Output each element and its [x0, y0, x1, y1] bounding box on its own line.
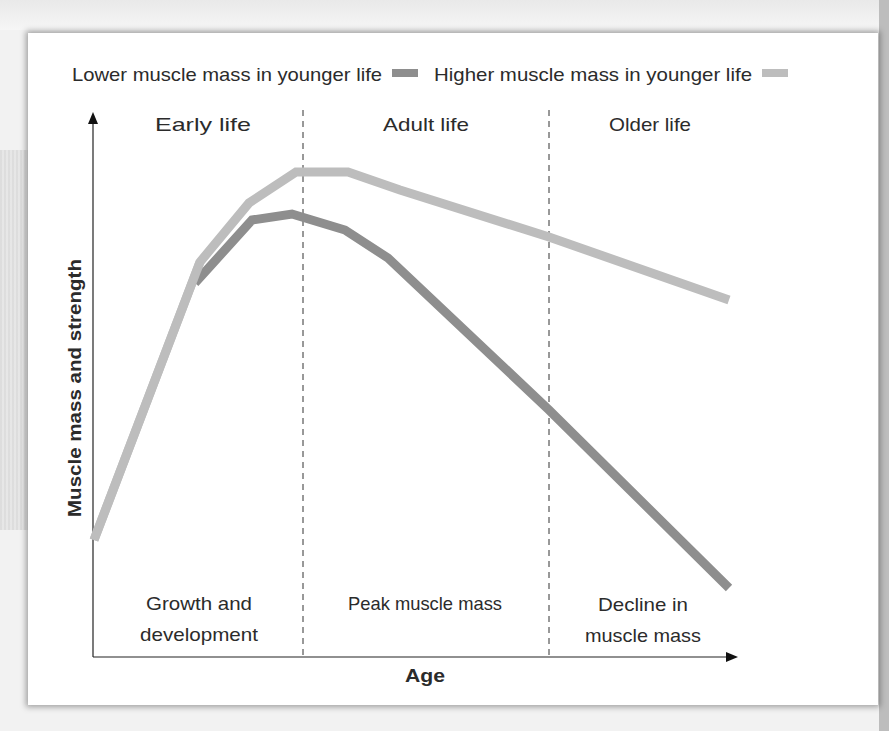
phase-desc-peak: Peak muscle mass: [348, 593, 502, 614]
background-top: [0, 0, 889, 30]
phase-early-life: Early life: [155, 114, 251, 135]
chart-card: Lower muscle mass in younger life Higher…: [28, 33, 878, 705]
line-higher-muscle-mass: [94, 172, 729, 540]
phase-older-life: Older life: [609, 114, 691, 135]
legend-higher-swatch: [762, 69, 788, 77]
phase-desc-growth-1: Growth and: [146, 593, 252, 614]
chart-svg: Lower muscle mass in younger life Higher…: [28, 33, 878, 705]
legend-higher-label: Higher muscle mass in younger life: [434, 64, 752, 85]
phase-desc-decline-2: muscle mass: [585, 625, 701, 646]
phase-desc-growth-2: development: [140, 624, 259, 645]
phase-adult-life: Adult life: [383, 114, 469, 135]
x-axis-label: Age: [405, 665, 445, 686]
background-left-decoration: [0, 150, 30, 530]
line-shared-start: [94, 262, 200, 540]
background-right-edge: [879, 0, 889, 731]
legend-lower-swatch: [392, 69, 418, 77]
x-axis-arrow-icon: [726, 652, 738, 662]
legend-lower-label: Lower muscle mass in younger life: [72, 64, 382, 85]
y-axis-label: Muscle mass and strength: [65, 259, 85, 517]
phase-desc-decline-1: Decline in: [598, 594, 688, 615]
y-axis-arrow-icon: [88, 112, 98, 124]
